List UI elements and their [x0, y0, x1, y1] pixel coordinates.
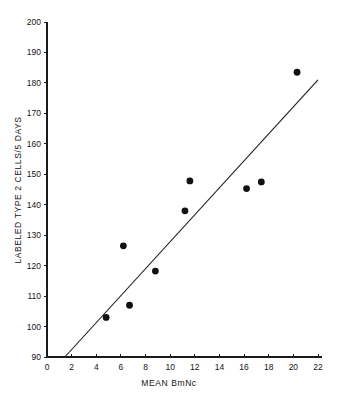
- y-tick-label: 180: [27, 78, 41, 88]
- y-tick-label: 200: [27, 17, 41, 27]
- x-tick-label: 22: [313, 362, 323, 372]
- y-tick-label: 120: [27, 261, 41, 271]
- x-tick-label: 20: [289, 362, 299, 372]
- x-tick-label: 4: [94, 362, 99, 372]
- plot-background: [0, 0, 338, 404]
- data-point-marker: [120, 242, 127, 249]
- data-point-marker: [258, 178, 265, 185]
- y-tick-label: 150: [27, 169, 41, 179]
- scatter-plot-figure: 90100110120130140150160170180190200 0246…: [0, 0, 338, 404]
- y-tick-label: 170: [27, 108, 41, 118]
- y-tick-label: 90: [32, 352, 42, 362]
- x-tick-label: 14: [215, 362, 225, 372]
- y-tick-label: 140: [27, 200, 41, 210]
- x-tick-label: 18: [264, 362, 274, 372]
- x-tick-label: 16: [239, 362, 249, 372]
- data-point-marker: [182, 207, 189, 214]
- data-point-marker: [152, 268, 159, 275]
- plot-canvas: 90100110120130140150160170180190200 0246…: [0, 0, 338, 404]
- y-tick-label: 100: [27, 322, 41, 332]
- x-tick-label: 2: [69, 362, 74, 372]
- data-point-marker: [186, 178, 193, 185]
- x-tick-label: 12: [190, 362, 200, 372]
- data-point-marker: [103, 314, 110, 321]
- data-point-marker: [126, 302, 133, 309]
- x-tick-label: 0: [45, 362, 50, 372]
- x-axis-title: MEAN BmNc: [141, 378, 197, 388]
- data-point-marker: [294, 69, 301, 76]
- data-point-marker: [243, 185, 250, 192]
- y-tick-label: 190: [27, 47, 41, 57]
- y-axis-title: LABELED TYPE 2 CELLS/5 DAYS: [13, 116, 23, 263]
- y-tick-label: 130: [27, 230, 41, 240]
- x-tick-label: 10: [165, 362, 175, 372]
- x-tick-label: 8: [143, 362, 148, 372]
- x-tick-label: 6: [119, 362, 124, 372]
- y-tick-label: 110: [27, 291, 41, 301]
- y-tick-label: 160: [27, 139, 41, 149]
